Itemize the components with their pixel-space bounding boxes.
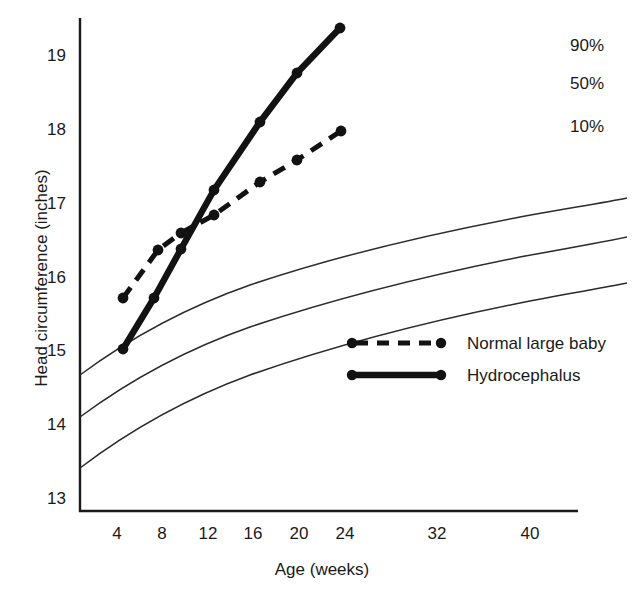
legend-label-hydrocephalus: Hydrocephalus — [467, 367, 580, 384]
plot-area — [0, 0, 644, 597]
y-tick-label-19: 19 — [32, 47, 66, 64]
x-tick-label-16: 16 — [233, 525, 273, 542]
x-tick-label-40: 40 — [510, 525, 550, 542]
series-normal-large-baby-line — [123, 131, 341, 298]
percentile-label-50: 50% — [570, 75, 604, 92]
x-tick-label-4: 4 — [97, 525, 137, 542]
x-tick-label-24: 24 — [325, 525, 365, 542]
percentile-label-90: 90% — [570, 37, 604, 54]
y-tick-label-15: 15 — [32, 342, 66, 359]
legend-swatch-hydrocephalus — [347, 370, 446, 380]
x-tick-label-12: 12 — [188, 525, 228, 542]
y-tick-label-16: 16 — [32, 269, 66, 286]
x-axis-title: Age (weeks) — [0, 560, 644, 580]
head-circumference-chart: Head circumference (inches) 19 18 17 16 … — [0, 0, 644, 597]
legend-label-normal-large-baby: Normal large baby — [467, 335, 606, 352]
y-tick-label-18: 18 — [32, 121, 66, 138]
x-tick-label-8: 8 — [142, 525, 182, 542]
y-tick-label-17: 17 — [32, 195, 66, 212]
percentile-curve-50 — [80, 237, 627, 417]
x-tick-label-32: 32 — [417, 525, 457, 542]
percentile-label-10: 10% — [570, 118, 604, 135]
y-tick-label-14: 14 — [32, 416, 66, 433]
legend-swatch-normal-large-baby — [347, 338, 446, 348]
x-tick-label-20: 20 — [279, 525, 319, 542]
y-tick-label-13: 13 — [32, 490, 66, 507]
